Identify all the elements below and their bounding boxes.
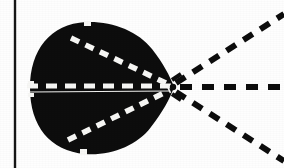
notch-bottom — [80, 149, 87, 155]
figure-svg — [0, 0, 284, 168]
figure-canvas — [0, 0, 284, 168]
notch-left-lower — [28, 93, 34, 97]
notch-top — [84, 21, 91, 26]
apex-node — [170, 84, 176, 90]
